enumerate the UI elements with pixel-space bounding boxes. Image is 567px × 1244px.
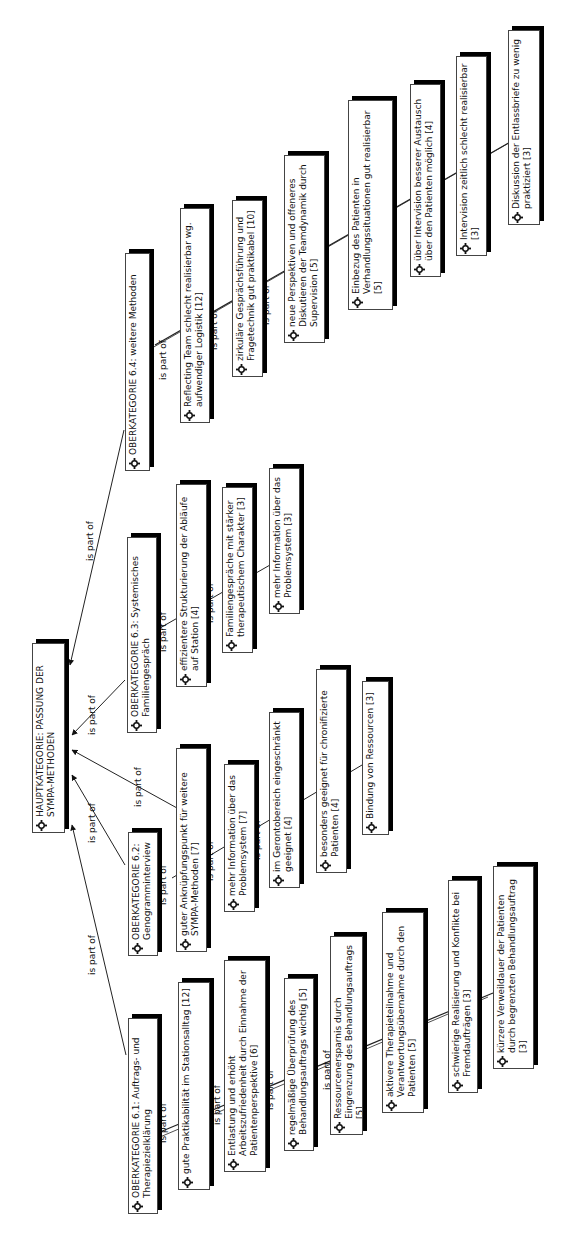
edge-c62a-main — [72, 750, 177, 808]
gear-icon — [334, 1122, 345, 1133]
node-c61a[interactable]: gute Praktikabilität im Stationsalltag [… — [178, 982, 210, 1190]
gear-icon — [228, 899, 239, 910]
concept-network-diagram: is part of is part of is part of is part… — [0, 0, 567, 1244]
node-label: Ressourcenersparnis durch Eingrenzung de… — [333, 940, 363, 1119]
node-label: OBERKATEGORIE 6.1: Auftrags- und Therapi… — [131, 1022, 153, 1198]
gear-icon — [452, 1080, 463, 1091]
gear-icon — [497, 1056, 508, 1067]
node-label: Bindung von Ressourcen [3] — [365, 685, 376, 819]
node-label: OBERKATEGORIE 6.4: weitere Methoden — [128, 257, 139, 455]
edge-label: is part of — [158, 340, 168, 380]
edge-label: is part of — [133, 767, 143, 807]
edge-c61-main — [72, 825, 126, 1055]
node-label: OBERKATEGORIE 6.2: Genogramminterview — [131, 836, 153, 940]
edge-c62-main — [72, 775, 125, 865]
gear-icon — [352, 297, 363, 308]
edge-c64-main — [70, 430, 124, 665]
node-c64f[interactable]: Intervision zeitlich schlecht realisierb… — [456, 56, 487, 256]
gear-icon — [182, 1177, 193, 1188]
node-c63a[interactable]: effizientere Strukturierung der Abläufe … — [176, 484, 207, 687]
node-label: mehr Information über das Problemsystem … — [272, 472, 294, 598]
node-c62[interactable]: OBERKATEGORIE 6.2: Genogramminterview — [128, 832, 158, 956]
node-label: guter Anknüpfungspunkt für weitere SYMPA… — [179, 752, 201, 936]
gear-icon — [180, 674, 191, 685]
node-c63[interactable]: OBERKATEGORIE 6.3: Systemisches Familien… — [127, 537, 157, 733]
node-label: Diskussion der Entlassbriefe zu wenig pr… — [511, 34, 533, 209]
gear-icon — [131, 720, 142, 731]
node-label: OBERKATEGORIE 6.3: Systemisches Familien… — [130, 541, 152, 717]
node-c64a[interactable]: Reflecting Team schlecht realisierbar wg… — [180, 208, 210, 423]
node-label: im Gerontobereich eingeschränkt geeignet… — [272, 716, 294, 872]
node-label: HAUPTKATEGORIE: PASSUNG DER SYMPA-METHOD… — [35, 647, 57, 817]
gear-icon — [273, 601, 284, 612]
gear-icon — [386, 1100, 397, 1111]
gear-icon — [226, 640, 237, 651]
node-c64[interactable]: OBERKATEGORIE 6.4: weitere Methoden — [125, 253, 150, 471]
node-c61d[interactable]: Ressourcenersparnis durch Eingrenzung de… — [330, 936, 363, 1135]
node-label: Reflecting Team schlecht realisierbar wg… — [183, 212, 205, 407]
node-c64b[interactable]: zirkuläre Gesprächsführung und Fragetech… — [232, 200, 263, 377]
node-c61g[interactable]: kürzere Verweildauer der Patienten durch… — [493, 866, 534, 1069]
node-label: regelmäßige Überprüfung des Behandlungsa… — [287, 982, 309, 1135]
node-c62d[interactable]: besonders geeignet für chronifizierte Pa… — [316, 669, 347, 873]
node-c62a[interactable]: guter Anknüpfungspunkt für weitere SYMPA… — [176, 748, 207, 952]
edge-label: is part of — [87, 935, 97, 975]
node-label: Entlastung und erhöht Arbeitszufriedenhe… — [227, 964, 260, 1156]
node-c61f[interactable]: schwierige Realisierung und Konflikte be… — [448, 880, 478, 1093]
gear-icon — [129, 458, 140, 469]
edge-label: is part of — [87, 803, 97, 843]
node-c63c[interactable]: mehr Information über das Problemsystem … — [269, 468, 300, 614]
gear-icon — [320, 860, 331, 871]
node-c61b[interactable]: Entlastung und erhöht Arbeitszufriedenhe… — [224, 960, 266, 1172]
node-label: zirkuläre Gesprächsführung und Fragetech… — [235, 204, 257, 361]
gear-icon — [273, 875, 284, 886]
node-label: über Intervision besserer Austausch über… — [413, 88, 435, 261]
gear-icon — [132, 1201, 143, 1212]
node-c64d[interactable]: Einbezug des Patienten in Verhandlungssi… — [348, 100, 393, 310]
node-c61c[interactable]: regelmäßige Überprüfung des Behandlungsa… — [284, 978, 314, 1151]
gear-icon — [132, 943, 143, 954]
node-c62e[interactable]: Bindung von Ressourcen [3] — [362, 681, 389, 835]
gear-icon — [366, 822, 377, 833]
node-label: gute Praktikabilität im Stationsalltag [… — [181, 986, 192, 1174]
node-main[interactable]: HAUPTKATEGORIE: PASSUNG DER SYMPA-METHOD… — [32, 643, 65, 833]
node-c63b[interactable]: Familiengespräche mit stärker therapeuti… — [222, 487, 253, 653]
gear-icon — [288, 330, 299, 341]
gear-icon — [228, 1159, 239, 1170]
gear-icon — [184, 410, 195, 421]
node-label: aktivere Therapieteilnahme und Verantwor… — [385, 916, 418, 1097]
node-label: besonders geeignet für chronifizierte Pa… — [319, 673, 341, 857]
node-label: neue Perspektiven und offeneres Diskutie… — [287, 159, 320, 327]
node-c61e[interactable]: aktivere Therapieteilnahme und Verantwor… — [382, 912, 424, 1113]
node-c61[interactable]: OBERKATEGORIE 6.1: Auftrags- und Therapi… — [128, 1018, 158, 1214]
node-c64c[interactable]: neue Perspektiven und offeneres Diskutie… — [284, 155, 325, 343]
node-c64e[interactable]: über Intervision besserer Austausch über… — [410, 84, 441, 277]
gear-icon — [460, 243, 471, 254]
gear-icon — [36, 820, 47, 831]
gear-icon — [414, 264, 425, 275]
node-label: effizientere Strukturierung der Abläufe … — [179, 488, 201, 671]
node-label: schwierige Realisierung und Konflikte be… — [451, 884, 473, 1077]
node-label: kürzere Verweildauer der Patienten durch… — [496, 870, 529, 1053]
node-label: Familiengespräche mit stärker therapeuti… — [225, 491, 247, 637]
node-label: Einbezug des Patienten in Verhandlungssi… — [351, 104, 384, 294]
gear-icon — [288, 1138, 299, 1149]
edge-label: is part of — [87, 695, 97, 735]
edge-c63-main — [72, 680, 125, 735]
edge-label: is part of — [85, 521, 95, 561]
gear-icon — [236, 364, 247, 375]
node-c64g[interactable]: Diskussion der Entlassbriefe zu wenig pr… — [508, 30, 540, 225]
node-c62c[interactable]: im Gerontobereich eingeschränkt geeignet… — [269, 712, 300, 888]
gear-icon — [180, 939, 191, 950]
node-label: Intervision zeitlich schlecht realisierb… — [459, 60, 481, 240]
node-label: mehr Information über das Problemsystem … — [227, 768, 249, 896]
node-c62b[interactable]: mehr Information über das Problemsystem … — [224, 764, 255, 912]
gear-icon — [512, 212, 523, 223]
